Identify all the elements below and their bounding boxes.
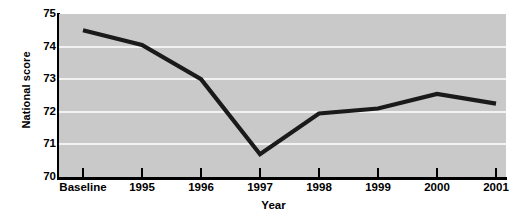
y-axis-tick-label: 72 bbox=[34, 106, 56, 118]
x-axis-tick-label: 2001 bbox=[483, 182, 509, 194]
y-axis-tick-label: 71 bbox=[34, 139, 56, 151]
y-axis-title-label: National score bbox=[20, 51, 32, 128]
x-axis-tick-label: 1998 bbox=[306, 182, 332, 194]
x-axis-tick-label: 1997 bbox=[247, 182, 273, 194]
x-axis-title-label: Year bbox=[261, 199, 285, 211]
y-axis-tick-label: 75 bbox=[34, 8, 56, 20]
series-line-national-score bbox=[59, 14, 506, 177]
x-axis-title: Year bbox=[0, 199, 527, 211]
y-axis-tick-label: 74 bbox=[34, 41, 56, 53]
x-axis-tick-label: 1995 bbox=[129, 182, 155, 194]
series-polyline bbox=[83, 30, 496, 154]
x-axis-tick-label: 1996 bbox=[188, 182, 214, 194]
plot-area bbox=[59, 14, 506, 177]
x-axis-line bbox=[57, 177, 507, 180]
x-axis-tick-label: 2000 bbox=[424, 182, 450, 194]
y-axis-tick-label: 70 bbox=[34, 171, 56, 183]
x-axis-tick-label: 1999 bbox=[365, 182, 391, 194]
y-axis-tick-labels: 707172737475 bbox=[32, 0, 56, 220]
y-axis-tick-label: 73 bbox=[34, 73, 56, 85]
x-axis-tick-label: Baseline bbox=[59, 182, 106, 194]
line-chart-figure: National score 707172737475 Baseline1995… bbox=[0, 0, 527, 220]
